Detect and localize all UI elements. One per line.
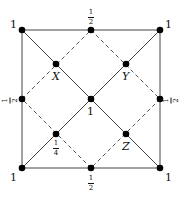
denominator: 2 [12,98,19,102]
label-Y: Y [122,71,129,82]
node-top-right [157,27,164,34]
label-quarter: 1 4 [53,140,59,157]
node-Z [123,131,130,138]
diagram-canvas [0,0,182,198]
node-left-mid [19,96,26,103]
label-bottom-left: 1 [10,172,17,183]
label-top-left: 1 [10,19,17,30]
label-bottom-right: 1 [165,172,172,183]
label-X: X [52,71,60,82]
node-center [88,96,95,103]
label-bottom-mid: 1 2 [88,175,94,192]
numerator: 1 [89,175,93,182]
label-center: 1 [87,106,94,117]
node-top-mid [88,27,95,34]
node-top-left [19,27,26,34]
numerator: 1 [54,140,58,147]
label-Z: Z [122,141,130,152]
label-left-mid: 1 2 [2,98,19,104]
numerator: 1 [163,98,170,102]
node-bottom-right [157,165,164,172]
denominator: 2 [173,98,180,102]
numerator: 1 [2,98,9,102]
denominator: 2 [89,185,93,192]
label-right-mid: 1 2 [163,98,180,104]
node-quarter [53,131,60,138]
denominator: 2 [89,19,93,26]
label-top-right: 1 [165,19,172,30]
numerator: 1 [89,9,93,16]
node-bottom-left [19,165,26,172]
node-bottom-mid [88,165,95,172]
label-top-mid: 1 2 [88,9,94,26]
node-X [53,61,60,68]
denominator: 4 [54,150,58,157]
node-Y [123,61,130,68]
